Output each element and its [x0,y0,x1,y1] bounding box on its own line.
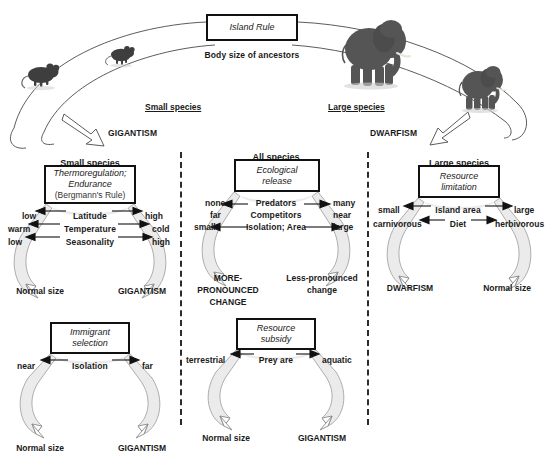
panel-large-species: Large species Resource limitation small … [373,152,545,312]
elephant-small-icon [457,59,507,113]
figure-caption [6,433,539,441]
small-species-driver-box: Thermoregulation; Endurance (Bergmann's … [44,165,136,204]
subsidy-row-left: terrestrial [186,349,225,367]
mouse-icon [103,43,137,67]
divider-right [367,152,369,425]
panel-all-species: All species Ecological release none far [186,146,366,311]
all-outcome-left: MORE- PRONOUNCED CHANGE [186,271,270,307]
small-outcome-left: Normal size [2,280,78,298]
immigrant-row-right: far [142,355,153,373]
large-outcome-right: Normal size [469,277,545,295]
all-left-small: small [194,216,216,234]
elephant-icon [339,11,411,89]
panel-resource-subsidy: Resource subsidy terrestrial Prey are aq… [186,314,366,424]
small-row-2-factor: Seasonality [53,231,127,249]
divider-left [180,152,182,425]
all-species-driver-box: Ecological release [234,159,320,192]
small-row-2-right: high [152,231,170,249]
banner-dwarfism-label: DWARFISM [370,122,417,140]
all-right-large: large [333,216,353,234]
large-outcome-left: DWARFISM [373,277,447,295]
immigrant-selection-driver-box: Immigrant selection [50,322,130,354]
island-rule-box: Island Rule [206,14,298,41]
small-outcome-right: GIGANTISM [104,280,180,298]
large-row-1-right: herbivorous [495,213,544,231]
banner-large-species-label: Large species [328,96,385,114]
immigrant-row-factor: Isolation [60,355,120,373]
subsidy-row-right: aquatic [322,349,352,367]
mouse-icon [20,60,62,90]
immigrant-row-left: near [17,355,35,373]
panel-immigrant-selection: Immigrant selection near Isolation far N… [0,318,180,428]
subsidy-row-factor: Prey are [248,349,304,367]
island-rule-title: Island Rule [229,22,274,33]
banner-small-species-label: Small species [145,96,201,114]
island-rule-banner: Island Rule Body size of ancestors Small… [0,0,545,148]
all-factor-isolation-area: Isolation; Area [233,216,319,234]
banner-gigantism-label: GIGANTISM [108,122,157,140]
all-outcome-right: Less-pronounced change [278,271,366,295]
large-row-1-factor: Diet [435,213,481,231]
small-row-2-left: low [8,231,22,249]
resource-subsidy-driver-box: Resource subsidy [236,318,316,350]
panel-small-species: Small species Thermoregulation; Enduranc… [0,152,180,312]
body-size-of-ancestors-label: Body size of ancestors [203,44,301,62]
large-species-driver-box: Resource limitation [418,165,500,198]
large-row-1-left: carnivorous [373,213,422,231]
